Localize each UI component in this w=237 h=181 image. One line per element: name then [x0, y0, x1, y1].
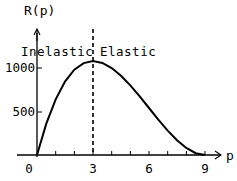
- x-tick-label-9: 9: [201, 161, 209, 176]
- y-tick-label-500: 500: [12, 104, 35, 119]
- x-tick-label-6: 6: [145, 161, 153, 176]
- y-tick-label-1000: 1000: [5, 60, 35, 75]
- y-ticks: [37, 68, 42, 112]
- x-axis-label: p: [226, 148, 234, 163]
- y-axis-label: R(p): [24, 3, 55, 18]
- revenue-curve: [37, 61, 205, 155]
- region-label-elastic: Elastic: [100, 44, 156, 59]
- x-tick-label-3: 3: [89, 161, 97, 176]
- revenue-chart: R(p) Inelastic Elastic 1000 500 0 3 6 9 …: [0, 0, 237, 181]
- x-tick-label-0: 0: [25, 161, 33, 176]
- region-label-inelastic: Inelastic: [21, 44, 93, 59]
